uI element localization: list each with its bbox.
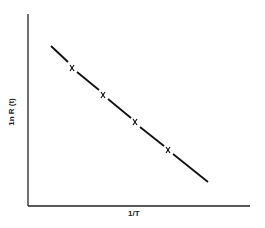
chart-canvas (0, 0, 265, 228)
x-axis-label: 1/T (128, 209, 140, 218)
x-marker-icon (133, 119, 137, 125)
x-marker-icon (166, 147, 170, 153)
y-axis-label: 1n R (t) (4, 82, 18, 142)
x-marker-icon (101, 92, 105, 98)
y-axis-label-text: 1n R (t) (7, 98, 16, 126)
x-marker-icon (70, 65, 74, 71)
fit-line (51, 46, 208, 182)
